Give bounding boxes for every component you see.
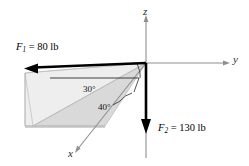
y-axis-arrowhead: [223, 61, 230, 66]
angle-label-40: 40°: [98, 103, 111, 112]
f1-unit: lb: [50, 41, 58, 52]
angle-label-30: 30°: [83, 85, 96, 94]
axis-label-z: z: [143, 6, 147, 17]
f1-arrowhead: [24, 64, 38, 74]
shaded-planes: [25, 63, 146, 128]
f2-equals: =: [171, 122, 177, 133]
diagram-canvas: [0, 0, 249, 166]
axis-label-x: x: [68, 148, 73, 159]
f2-unit: lb: [198, 122, 206, 133]
axis-label-y: y: [233, 54, 238, 65]
f1-subscript: 1: [22, 46, 26, 54]
force-label-f1: F1 = 80 lb: [16, 42, 58, 53]
f1-equals: =: [29, 41, 35, 52]
force-vector-f2: [141, 63, 151, 134]
angle-30-arc: [140, 71, 141, 79]
force-label-f2: F2 = 130 lb: [158, 123, 206, 134]
f1-magnitude: 80: [37, 41, 48, 52]
f2-magnitude: 130: [179, 122, 195, 133]
f2-arrowhead: [141, 119, 151, 134]
f2-subscript: 2: [164, 127, 168, 135]
force-diagram-figure: F1 = 80 lb F2 = 130 lb z y x 30° 40°: [0, 0, 249, 166]
